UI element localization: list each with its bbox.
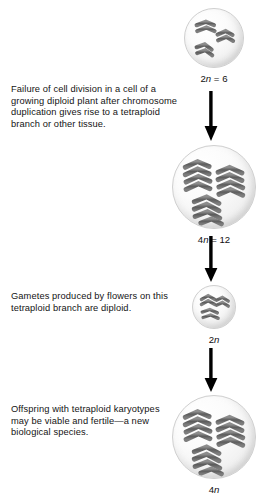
caption-offspring-new-species: Offspring with tetraploid karyotypes may… — [11, 404, 171, 439]
cell-label-2n-6: 2n = 6 — [201, 73, 228, 84]
cell-group-diploid-gamete: 2n — [190, 285, 238, 345]
cell-label-4n: 4n — [209, 484, 220, 495]
chromosome-set-icon — [193, 286, 235, 328]
arrow-down-1 — [203, 91, 219, 141]
caption-gametes-diploid: Gametes produced by flowers on this tetr… — [11, 291, 183, 314]
chromosome-set-icon — [173, 396, 255, 478]
arrow-down-2 — [203, 236, 219, 282]
arrow-down-3 — [203, 348, 219, 392]
chromosome-set-icon — [173, 146, 255, 228]
cell-group-diploid-parent: 2n = 6 — [181, 8, 247, 84]
cell-diploid-gamete-2n — [192, 285, 236, 329]
chromosome-set-icon — [185, 9, 243, 67]
cell-tetraploid-4n-12 — [172, 145, 256, 229]
cell-label-2n: 2n — [209, 334, 220, 345]
cell-group-tetraploid-branch: 4n = 12 — [170, 145, 258, 245]
caption-cell-division-failure: Failure of cell division in a cell of a … — [11, 84, 179, 130]
cell-diploid-2n-6 — [184, 8, 244, 68]
cell-tetraploid-offspring-4n — [172, 395, 256, 479]
cell-group-tetraploid-offspring: 4n — [170, 395, 258, 495]
figure-canvas: 2n = 6 — [0, 0, 258, 499]
